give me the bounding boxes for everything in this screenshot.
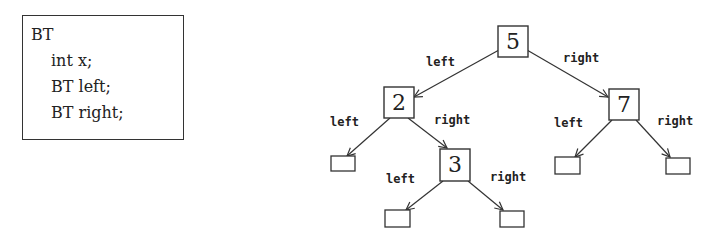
edge-label-left: left <box>386 172 415 186</box>
edge-label-right: right <box>563 51 599 65</box>
null-leaf <box>385 210 410 227</box>
tree-node-2: 2 <box>384 87 414 118</box>
edge-label-right: right <box>657 114 693 128</box>
tree-edges <box>347 50 670 210</box>
null-leaf <box>331 156 355 171</box>
edge-label-left: left <box>330 115 359 129</box>
null-leaf <box>555 157 580 174</box>
edge-label-right: right <box>490 170 526 184</box>
node-value: 5 <box>506 29 520 54</box>
null-leaf <box>666 158 690 174</box>
tree-node-5: 5 <box>498 26 528 57</box>
tree-node-7: 7 <box>609 89 639 120</box>
null-leaf <box>500 211 524 227</box>
binary-tree-diagram: 5 2 7 3 left right left right left right… <box>0 0 711 243</box>
tree-node-3: 3 <box>440 149 470 181</box>
edge-label-left: left <box>554 116 583 130</box>
node-value: 7 <box>617 92 631 117</box>
edge-3-right <box>468 181 503 210</box>
edge-label-left: left <box>426 55 455 69</box>
node-value: 2 <box>392 90 406 115</box>
node-value: 3 <box>448 152 462 177</box>
edge-label-right: right <box>434 113 470 127</box>
